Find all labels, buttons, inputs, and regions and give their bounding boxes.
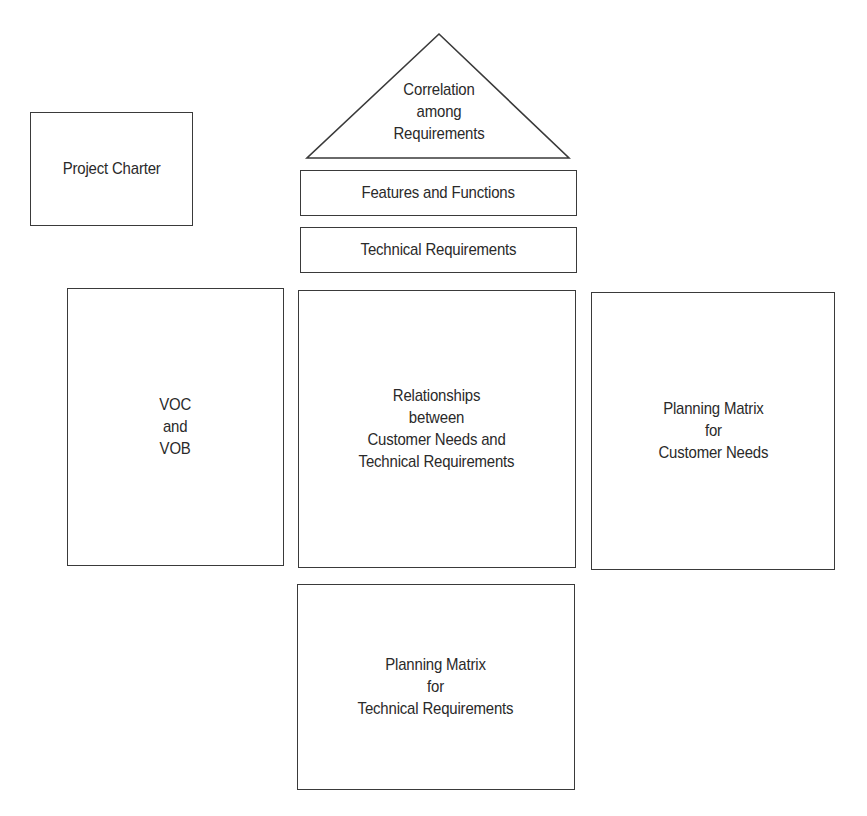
technical-requirements-box: Technical Requirements [300, 227, 577, 273]
planning-matrix-customer-box: Planning Matrix for Customer Needs [591, 292, 835, 570]
project-charter-label: Project Charter [63, 158, 161, 180]
features-functions-label: Features and Functions [362, 182, 515, 204]
project-charter-box: Project Charter [30, 112, 193, 226]
planning-matrix-technical-label: Planning Matrix for Technical Requiremen… [358, 654, 514, 720]
roof-label: Correlation among Requirements [351, 79, 527, 145]
features-functions-box: Features and Functions [300, 170, 577, 216]
technical-requirements-label: Technical Requirements [361, 239, 517, 261]
voc-vob-label: VOC and VOB [160, 394, 192, 460]
planning-matrix-technical-box: Planning Matrix for Technical Requiremen… [297, 584, 575, 790]
planning-matrix-customer-label: Planning Matrix for Customer Needs [658, 398, 768, 464]
relationships-label: Relationships between Customer Needs and… [359, 385, 515, 473]
voc-vob-box: VOC and VOB [67, 288, 284, 566]
relationships-box: Relationships between Customer Needs and… [298, 290, 576, 568]
